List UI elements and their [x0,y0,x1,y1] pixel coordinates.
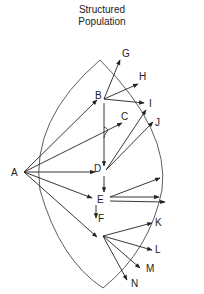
node-h-label: H [139,71,146,82]
edge-b-i [104,99,144,103]
node-g-label: G [122,48,130,59]
node-f-label: F [98,213,104,224]
node-b-label: B [95,90,102,101]
junction-hook [104,127,108,138]
edge-d-j [106,122,153,170]
edge-e-out1 [110,178,160,197]
node-m-label: M [146,263,154,274]
edge-e-out3 [110,201,165,202]
population-boundary-right [100,60,163,288]
node-e-label: E [97,194,104,205]
population-boundary [39,60,103,288]
node-a-label: A [11,167,18,178]
edge-a-b [24,100,97,172]
network-diagram: A B C D E F G H I J K L M N [0,0,204,294]
node-k-label: K [155,217,162,228]
node-c-label: C [121,111,128,122]
node-i-label: I [149,98,152,109]
node-j-label: J [155,117,160,128]
node-d-label: D [94,163,101,174]
node-n-label: N [131,278,138,289]
edge-f-k [103,223,152,236]
edge-f-n [103,236,127,280]
edge-a-f [24,172,97,237]
edge-f-m [103,236,140,268]
edge-a-e [24,172,92,198]
node-l-label: L [155,244,161,255]
